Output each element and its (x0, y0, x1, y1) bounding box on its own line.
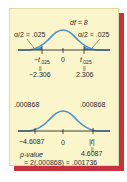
df-label: df = 8 (70, 19, 88, 27)
abs-t-value: 4.6087 (81, 150, 102, 158)
left-critical-value: −2.306 (29, 71, 51, 79)
bottom-t-curve (18, 111, 110, 134)
left-critical-label: −t.025 (34, 56, 50, 66)
bottom-right-tail-label: .000868 (80, 101, 105, 109)
bottom-left-tail-label: .000868 (14, 101, 39, 109)
right-tail-label: α/2 = .025 (78, 31, 110, 39)
bottom-center-zero: 0 (61, 139, 65, 147)
pvalue-expression: = 2(.000868) = .001736 (24, 159, 97, 167)
bottom-left-value: −4.6087 (19, 138, 45, 146)
pvalue-label: p-value (20, 151, 43, 159)
left-pointer (27, 39, 34, 48)
top-center-zero: 0 (61, 56, 65, 64)
right-critical-label: t.025 (80, 56, 92, 66)
right-critical-value: 2.306 (76, 71, 94, 79)
right-pointer (92, 39, 100, 48)
left-tail-label: α/2 = .025 (14, 31, 46, 39)
